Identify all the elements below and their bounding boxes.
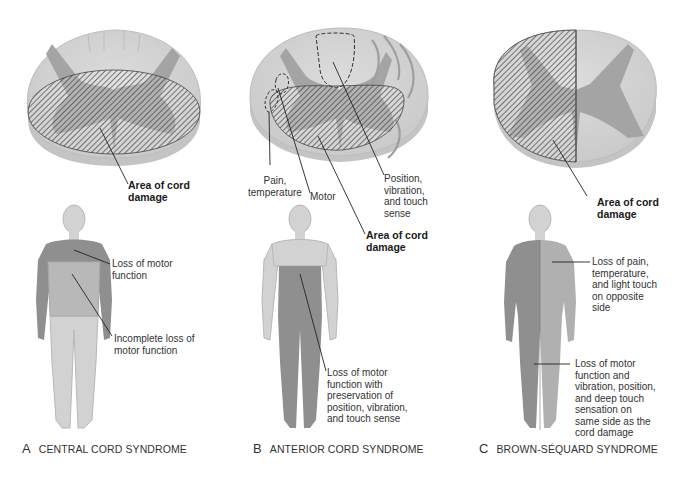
panel-b-caption: BANTERIOR CORD SYNDROME bbox=[253, 441, 424, 456]
panel-c-lower-label: Loss of motor function and vibration, po… bbox=[575, 358, 656, 439]
panel-a-cord bbox=[27, 30, 200, 184]
panel-b-letter: B bbox=[253, 441, 262, 456]
panel-a-caption: ACENTRAL CORD SYNDROME bbox=[22, 441, 187, 456]
damage-zone bbox=[494, 30, 576, 162]
panel-c-cord bbox=[494, 30, 657, 196]
panel-c-upper-label: Loss of pain, temperature, and light tou… bbox=[592, 256, 657, 314]
panel-b-title: ANTERIOR CORD SYNDROME bbox=[270, 443, 424, 455]
panel-b-lower-label: Loss of motor function with preservation… bbox=[327, 367, 408, 425]
panel-a-upper-label: Loss of motor function bbox=[112, 258, 173, 281]
panel-b-position-label: Position, vibration, and touch sense bbox=[384, 173, 428, 219]
panel-b-damage-label: Area of cord damage bbox=[366, 230, 428, 253]
panel-b-pain-label: Pain, temperature bbox=[248, 175, 302, 198]
damage-zone bbox=[28, 70, 200, 154]
panel-c-caption: CBROWN-SÉQUARD SYNDROME bbox=[479, 441, 658, 456]
panel-a-letter: A bbox=[22, 441, 31, 456]
panel-a-body bbox=[36, 205, 112, 428]
panel-b-motor-label: Motor bbox=[310, 191, 336, 203]
panel-a-lower-label: Incomplete loss of motor function bbox=[114, 333, 195, 356]
panel-c-title: BROWN-SÉQUARD SYNDROME bbox=[497, 443, 658, 455]
panel-c-damage-label: Area of cord damage bbox=[597, 197, 659, 220]
panel-a-damage-label: Area of cord damage bbox=[128, 180, 190, 203]
panel-a-title: CENTRAL CORD SYNDROME bbox=[39, 443, 187, 455]
panel-c-letter: C bbox=[479, 441, 489, 456]
